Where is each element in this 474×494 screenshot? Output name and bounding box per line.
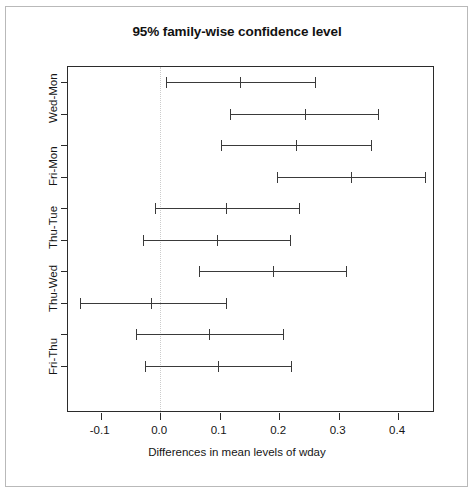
x-axis-tick-label: 0.3 (330, 424, 346, 436)
interval-estimate-tick (273, 266, 274, 277)
interval-upper-cap (346, 266, 347, 277)
interval-upper-cap (378, 109, 379, 120)
confidence-interval-line (80, 303, 226, 304)
y-axis-tick (61, 145, 68, 146)
x-axis-tick-label: -0.1 (90, 424, 110, 436)
y-axis-tick (61, 177, 68, 178)
x-axis-tick (279, 413, 280, 420)
interval-estimate-tick (217, 235, 218, 246)
interval-lower-cap (221, 140, 222, 151)
plot-area (67, 66, 434, 412)
interval-estimate-tick (151, 298, 152, 309)
interval-estimate-tick (209, 329, 210, 340)
y-axis-tick (61, 271, 68, 272)
x-axis-tick (160, 413, 161, 420)
interval-estimate-tick (296, 140, 297, 151)
interval-upper-cap (226, 298, 227, 309)
interval-upper-cap (371, 140, 372, 151)
x-axis-tick (220, 413, 221, 420)
y-axis-tick (61, 240, 68, 241)
interval-lower-cap (166, 77, 167, 88)
interval-estimate-tick (218, 361, 219, 372)
interval-upper-cap (283, 329, 284, 340)
x-axis-tick (339, 413, 340, 420)
interval-upper-cap (290, 235, 291, 246)
interval-lower-cap (230, 109, 231, 120)
y-axis-tick-label: Fri-Mon (47, 146, 59, 186)
interval-upper-cap (299, 203, 300, 214)
y-axis-tick-label: Fri-Thu (47, 338, 59, 375)
x-axis-title: Differences in mean levels of wday (0, 446, 474, 458)
y-axis-tick (61, 82, 68, 83)
x-axis-tick (101, 413, 102, 420)
interval-upper-cap (315, 77, 316, 88)
y-axis-tick (61, 366, 68, 367)
interval-lower-cap (80, 298, 81, 309)
y-axis-tick (61, 334, 68, 335)
interval-lower-cap (277, 172, 278, 183)
y-axis-tick (61, 303, 68, 304)
interval-estimate-tick (240, 77, 241, 88)
chart-page: 95% family-wise confidence level Wed-Mon… (0, 0, 474, 494)
interval-estimate-tick (226, 203, 227, 214)
x-axis-tick-label: 0.2 (270, 424, 286, 436)
interval-lower-cap (145, 361, 146, 372)
interval-lower-cap (136, 329, 137, 340)
interval-upper-cap (291, 361, 292, 372)
interval-lower-cap (155, 203, 156, 214)
interval-upper-cap (425, 172, 426, 183)
y-axis-tick-label: Wed-Mon (47, 74, 59, 124)
y-axis-tick-label: Thu-Wed (47, 265, 59, 312)
interval-estimate-tick (305, 109, 306, 120)
interval-lower-cap (199, 266, 200, 277)
x-axis-tick-label: 0.1 (211, 424, 227, 436)
interval-estimate-tick (351, 172, 352, 183)
x-axis-tick-label: 0.0 (151, 424, 167, 436)
y-axis-tick (61, 208, 68, 209)
y-axis-tick-label: Thu-Tue (47, 206, 59, 249)
y-axis-tick (61, 114, 68, 115)
chart-title: 95% family-wise confidence level (0, 24, 474, 39)
interval-lower-cap (143, 235, 144, 246)
x-axis-tick (398, 413, 399, 420)
x-axis-tick-label: 0.4 (389, 424, 405, 436)
